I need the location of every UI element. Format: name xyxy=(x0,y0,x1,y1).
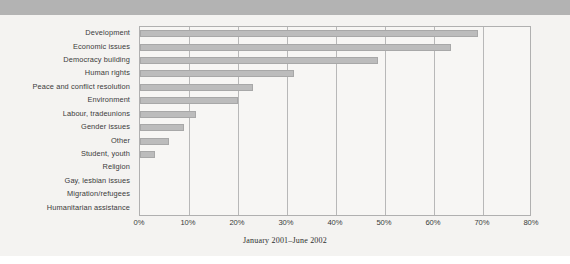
plot-area xyxy=(139,26,531,216)
category-label-other: Other xyxy=(0,133,135,146)
bar-row xyxy=(140,201,530,214)
category-label-economic-issues: Economic issues xyxy=(0,39,135,52)
bar-development xyxy=(140,30,478,37)
category-label-human-rights: Human rights xyxy=(0,66,135,79)
bar-row xyxy=(140,161,530,174)
bar-series xyxy=(140,27,530,215)
bar-row xyxy=(140,175,530,188)
category-label-development: Development xyxy=(0,26,135,39)
chart-caption: January 2001–June 2002 xyxy=(0,236,570,245)
figure-container: DevelopmentEconomic issuesDemocracy buil… xyxy=(0,0,570,264)
x-tick-0%: 0% xyxy=(134,218,145,227)
bar-row xyxy=(140,108,530,121)
bar-student-youth xyxy=(140,151,155,158)
bar-row xyxy=(140,188,530,201)
bar-row xyxy=(140,81,530,94)
figure-bottom-margin xyxy=(0,256,570,264)
bar-peace-and-conflict-resolution xyxy=(140,84,253,91)
bar-row xyxy=(140,134,530,147)
category-axis-labels: DevelopmentEconomic issuesDemocracy buil… xyxy=(0,26,135,216)
x-tick-10%: 10% xyxy=(180,218,195,227)
x-tick-20%: 20% xyxy=(229,218,244,227)
bar-democracy-building xyxy=(140,57,378,64)
bar-row xyxy=(140,40,530,53)
bar-economic-issues xyxy=(140,44,451,51)
x-tick-30%: 30% xyxy=(278,218,293,227)
bar-labour-tradeunions xyxy=(140,111,196,118)
bar-other xyxy=(140,138,169,145)
category-label-peace-and-conflict-resolution: Peace and conflict resolution xyxy=(0,80,135,93)
bar-row xyxy=(140,148,530,161)
x-tick-80%: 80% xyxy=(523,218,538,227)
bar-row xyxy=(140,67,530,80)
category-label-religion: Religion xyxy=(0,160,135,173)
x-tick-60%: 60% xyxy=(425,218,440,227)
category-label-gender-issues: Gender issues xyxy=(0,120,135,133)
x-tick-50%: 50% xyxy=(376,218,391,227)
bar-row xyxy=(140,54,530,67)
bar-row xyxy=(140,27,530,40)
category-label-gay-lesbian-issues: Gay, lesbian issues xyxy=(0,174,135,187)
page-top-band xyxy=(0,0,570,15)
x-tick-40%: 40% xyxy=(327,218,342,227)
category-label-democracy-building: Democracy building xyxy=(0,53,135,66)
bar-environment xyxy=(140,97,238,104)
category-label-migration-refugees: Migration/refugees xyxy=(0,187,135,200)
category-label-humanitarian-assistance: Humanitarian assistance xyxy=(0,200,135,213)
category-label-environment: Environment xyxy=(0,93,135,106)
category-label-student-youth: Student, youth xyxy=(0,147,135,160)
bar-row xyxy=(140,94,530,107)
bar-row xyxy=(140,121,530,134)
x-tick-70%: 70% xyxy=(474,218,489,227)
bar-human-rights xyxy=(140,70,294,77)
category-label-labour-tradeunions: Labour, tradeunions xyxy=(0,107,135,120)
bar-gender-issues xyxy=(140,124,184,131)
x-axis-tick-labels: 0%10%20%30%40%50%60%70%80% xyxy=(139,218,531,232)
